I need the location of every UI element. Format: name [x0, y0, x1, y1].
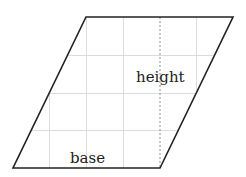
- height-label: height: [136, 68, 185, 86]
- base-label: base: [70, 149, 105, 167]
- parallelogram-diagram: height base: [0, 0, 246, 177]
- grid: [0, 0, 246, 177]
